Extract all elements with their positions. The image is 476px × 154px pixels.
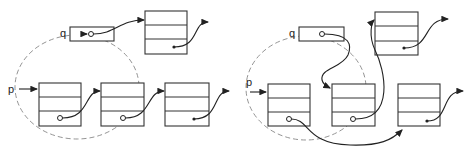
node-2	[101, 83, 164, 126]
node-3	[398, 84, 463, 126]
top-node	[375, 12, 448, 55]
top-node	[145, 11, 208, 54]
p-label: p	[246, 76, 252, 88]
linked-list-diagram: q p	[0, 0, 476, 154]
q-label: q	[289, 27, 295, 39]
p-label: p	[8, 83, 14, 95]
q-label: q	[60, 27, 66, 39]
panel-after: q p	[246, 12, 463, 145]
node-3	[165, 83, 229, 126]
node-1	[39, 83, 100, 126]
panel-before: q p	[8, 11, 229, 139]
